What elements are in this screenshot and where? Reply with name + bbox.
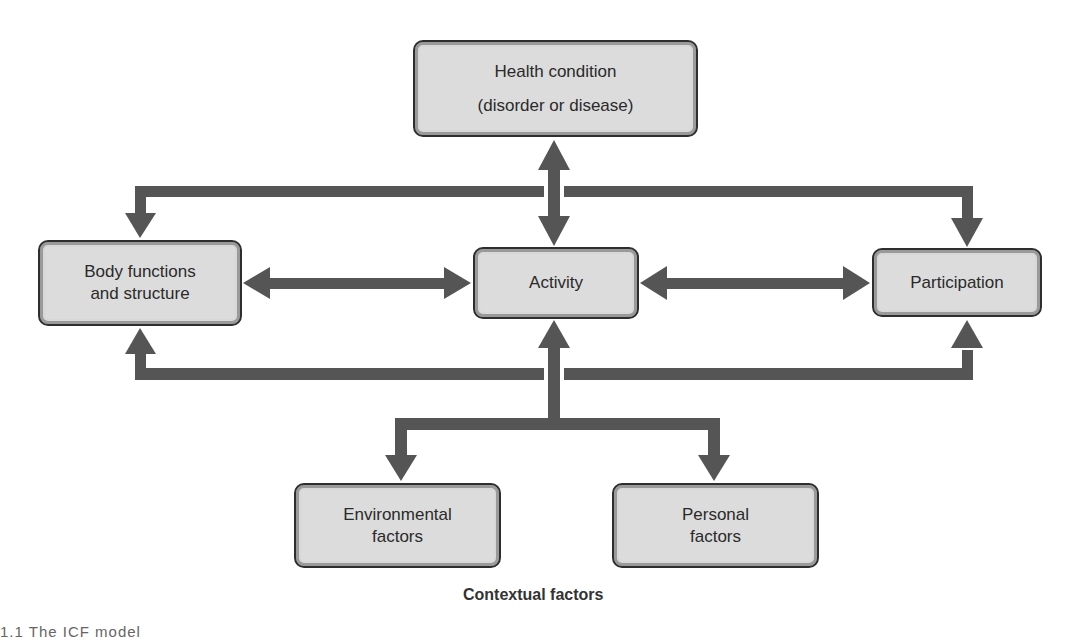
environmental-label-line1: Environmental — [343, 504, 452, 526]
arrow-body-activity — [243, 267, 471, 299]
environmental-label-line2: factors — [372, 526, 423, 548]
personal-label-line1: Personal — [682, 504, 749, 526]
arrow-context-branch — [385, 418, 730, 481]
activity-label: Activity — [529, 272, 583, 294]
health-condition-sublabel: (disorder or disease) — [478, 89, 634, 123]
figure-caption: 1.1 The ICF model — [0, 623, 141, 640]
personal-label-line2: factors — [690, 526, 741, 548]
participation-label: Participation — [910, 272, 1004, 294]
activity-box: Activity — [473, 247, 639, 319]
body-functions-label-line2: and structure — [90, 283, 189, 305]
arrow-activity-participation — [640, 266, 870, 300]
health-condition-box: Health condition (disorder or disease) — [413, 40, 698, 137]
body-functions-box: Body functions and structure — [38, 240, 242, 326]
health-condition-label: Health condition — [495, 55, 617, 89]
participation-box: Participation — [872, 248, 1042, 317]
contextual-factors-label: Contextual factors — [463, 586, 603, 604]
environmental-factors-box: Environmental factors — [294, 483, 501, 568]
personal-factors-box: Personal factors — [612, 483, 819, 568]
body-functions-label-line1: Body functions — [84, 261, 196, 283]
